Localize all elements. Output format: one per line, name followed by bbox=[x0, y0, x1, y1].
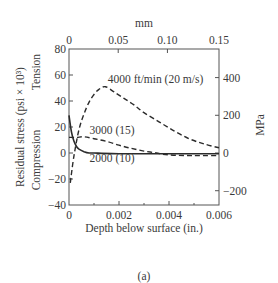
series-annotation: 4000 ft/min (20 m/s) bbox=[108, 73, 204, 86]
y-tick-label: −40 bbox=[48, 199, 66, 211]
x2-tick-label: 0 bbox=[66, 34, 72, 46]
y-tick-label: 40 bbox=[55, 95, 67, 107]
y-tick-label: 80 bbox=[55, 43, 67, 55]
x-tick-label: 0 bbox=[66, 209, 72, 221]
y-tick-label: 60 bbox=[55, 69, 67, 81]
x2-tick-label: 0.15 bbox=[209, 34, 229, 46]
x2-tick-label: 0.10 bbox=[157, 34, 177, 46]
y2-tick-label: 200 bbox=[223, 109, 241, 121]
x-tick-label: 0.002 bbox=[106, 209, 132, 221]
series-annotation: 3000 (15) bbox=[90, 124, 135, 137]
x2-tick-label: 0.05 bbox=[108, 34, 128, 46]
x-tick-label: 0.004 bbox=[156, 209, 182, 221]
residual-stress-chart: 00.0020.0040.00600.050.100.15−40−2002040… bbox=[0, 0, 278, 283]
y2-tick-label: 0 bbox=[223, 147, 229, 159]
y2-axis-title: MPa bbox=[254, 114, 266, 136]
x2-axis-title: mm bbox=[135, 17, 153, 29]
y-tick-label: −20 bbox=[48, 173, 66, 185]
y-axis-title: Residual stress (psi × 10³) bbox=[14, 67, 27, 187]
y-tick-label: 0 bbox=[60, 147, 66, 159]
figure-caption: (a) bbox=[138, 270, 151, 283]
series-annotation: 2000 (10) bbox=[90, 152, 135, 165]
y-tick-label: 20 bbox=[55, 121, 67, 133]
x-axis-title: Depth below surface (in.) bbox=[85, 222, 203, 235]
y2-tick-label: −200 bbox=[223, 185, 247, 197]
x-tick-label: 0.006 bbox=[206, 209, 232, 221]
y-axis-tension-label: Tension bbox=[30, 54, 42, 90]
y-axis-compression-label: Compression bbox=[30, 129, 43, 190]
y2-tick-label: 400 bbox=[223, 72, 241, 84]
